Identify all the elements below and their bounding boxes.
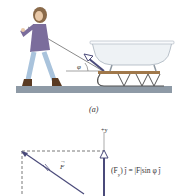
bathtub-rim [90,41,174,44]
y-component-head-icon [100,150,108,158]
sled-supports [118,74,160,86]
person-face [35,11,43,21]
component-formula: (Fy) ĵ = |F|sin φ ĵ [111,166,161,177]
force-vector-line [23,152,84,194]
angle-arc [85,63,88,71]
vector-arrow-icon: → [60,158,66,164]
person-legs [28,52,54,80]
bathtub [92,42,172,65]
physics-figure [0,0,191,196]
y-axis-label: +y [101,127,107,133]
person-boots [22,78,62,86]
angle-label: φ [77,63,81,71]
force-label: → F [60,163,64,171]
ground [16,86,172,93]
panel-label: (a) [89,105,98,114]
bathtub-feet [110,65,156,71]
person-hand [21,28,25,32]
sled-runner [98,74,164,86]
sled-deck [98,71,160,74]
